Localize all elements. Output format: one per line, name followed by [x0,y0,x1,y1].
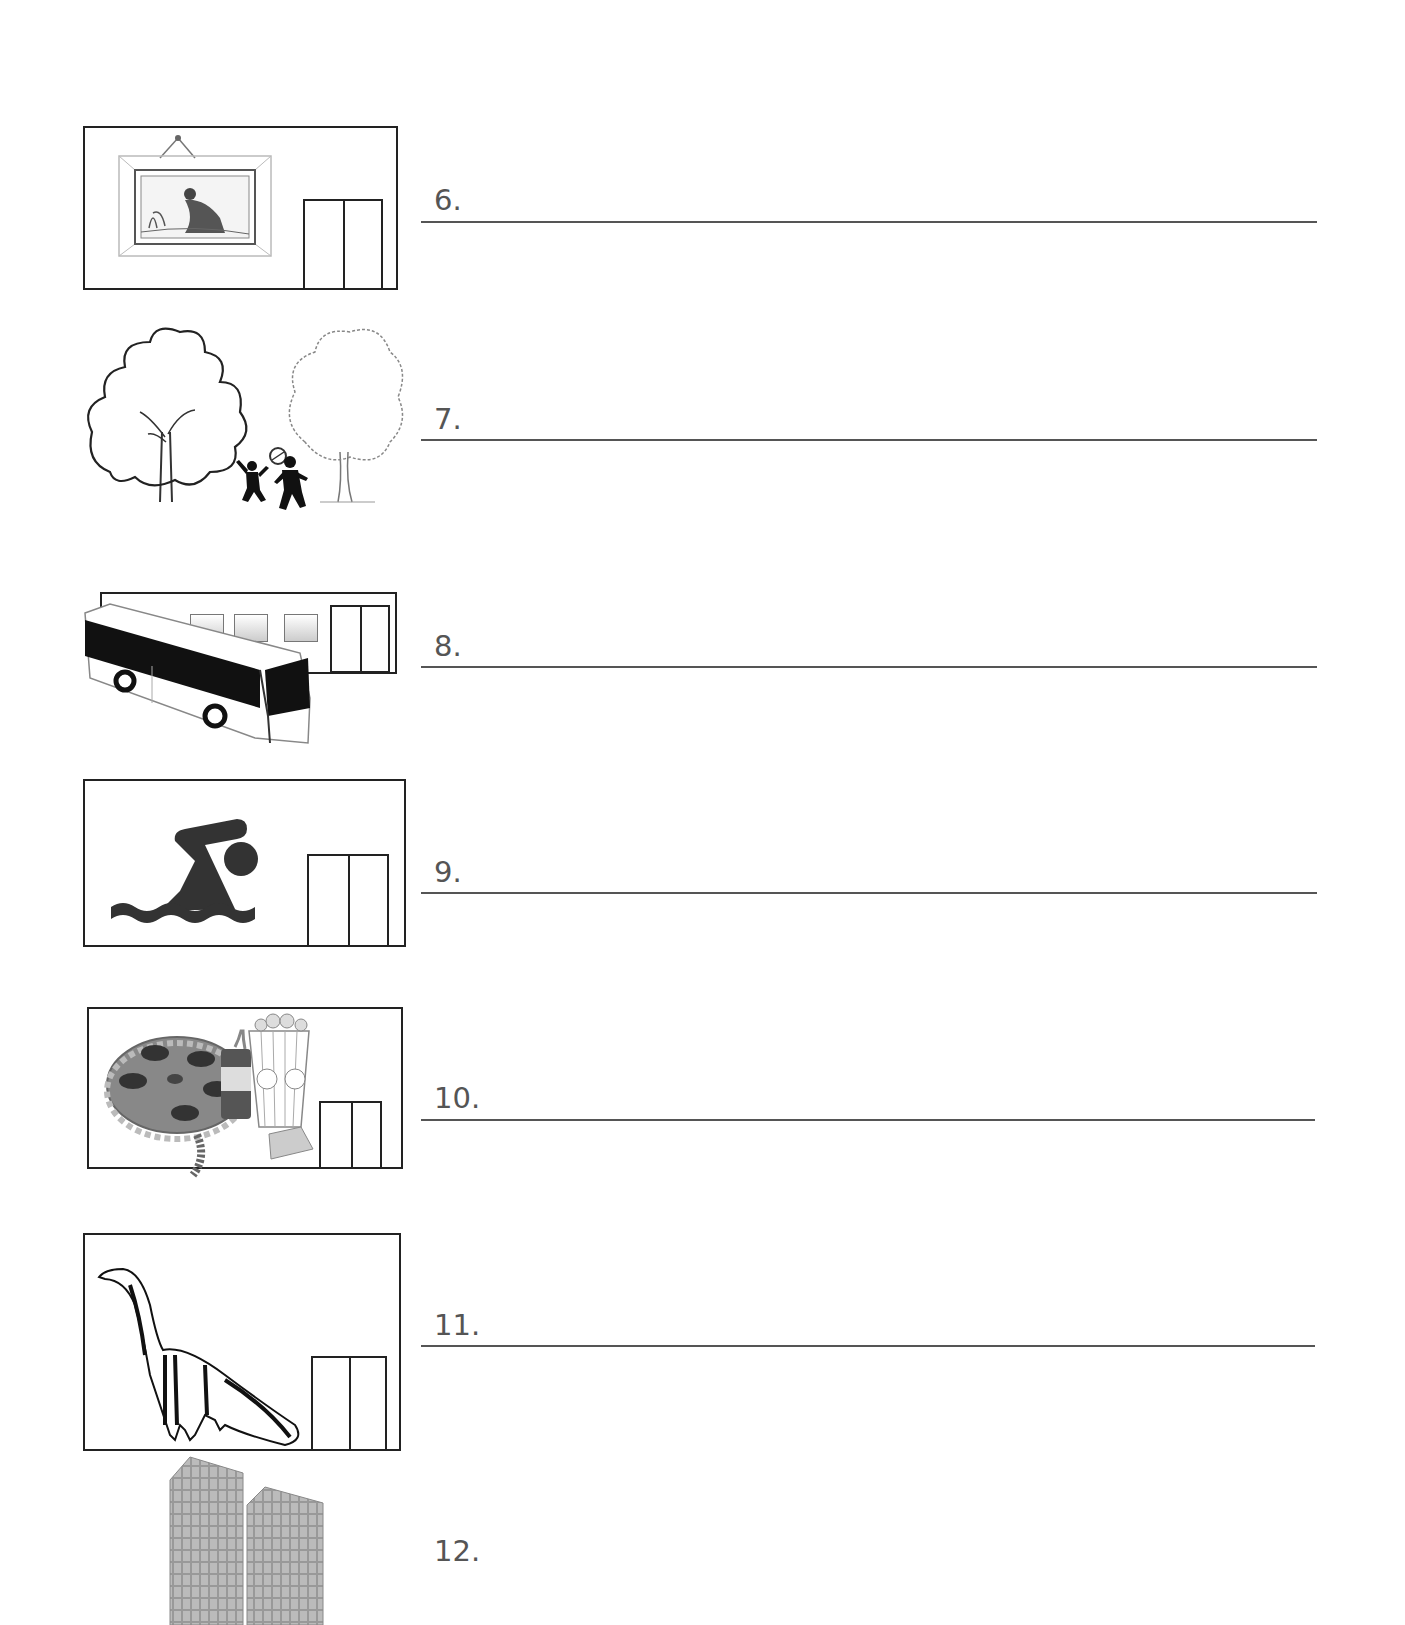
door-icon [330,605,390,673]
art-gallery-museum-icon [83,126,398,290]
answer-line[interactable] [421,1345,1315,1347]
item-number: 10. [434,1084,480,1113]
office-buildings-icon [165,1455,335,1625]
door-icon [307,854,389,947]
dinosaur-icon [95,1255,315,1455]
answer-line[interactable] [421,221,1317,223]
answer-line[interactable] [421,1119,1315,1121]
door-icon [311,1356,387,1451]
cinema-icon [87,1007,403,1169]
item-number: 9. [434,858,462,887]
swimming-pool-icon [83,779,406,947]
item-number: 12. [434,1537,480,1566]
door-icon [303,199,383,290]
door-icon [319,1101,382,1169]
answer-line[interactable] [421,439,1317,441]
answer-line[interactable] [421,666,1317,668]
item-number: 6. [434,186,462,215]
item-number: 11. [434,1311,480,1340]
bus-icon [80,598,320,748]
answer-line[interactable] [421,892,1317,894]
item-number: 7. [434,405,462,434]
item-number: 8. [434,632,462,661]
natural-history-museum-icon [83,1233,401,1451]
park-icon [80,322,410,522]
swimmer-icon [105,801,305,941]
